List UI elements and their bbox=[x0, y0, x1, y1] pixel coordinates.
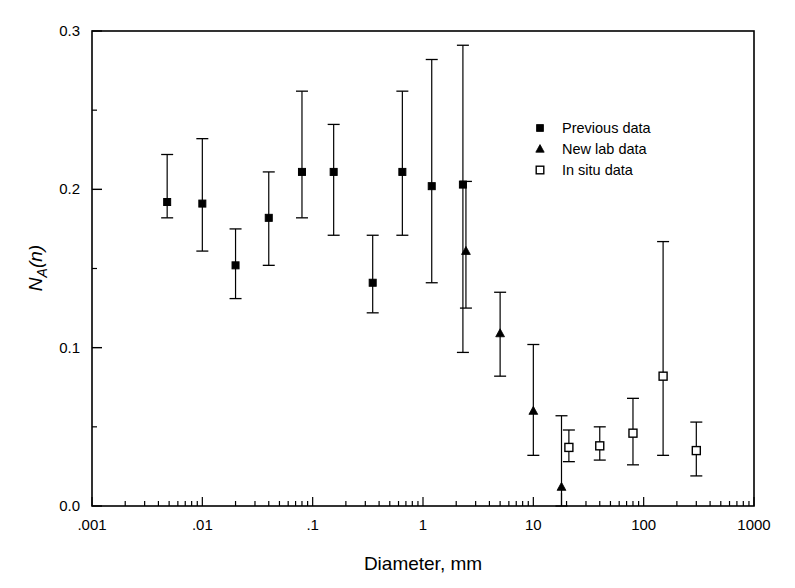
marker-filled-square bbox=[298, 168, 305, 175]
marker-filled-square bbox=[369, 279, 376, 286]
x-axis-tick-label: 100 bbox=[631, 516, 656, 533]
marker-filled-square bbox=[399, 168, 406, 175]
y-axis-title-subscript: A bbox=[34, 268, 50, 278]
y-axis-tick-label: 0.1 bbox=[59, 339, 80, 356]
legend-item-label: Previous data bbox=[562, 120, 652, 136]
marker-open-square bbox=[659, 372, 667, 380]
legend-item-label: In situ data bbox=[562, 162, 634, 178]
marker-filled-square bbox=[330, 168, 337, 175]
x-axis-tick-label: .001 bbox=[77, 516, 106, 533]
marker-filled-square bbox=[232, 262, 239, 269]
y-axis-title-paren: (n) bbox=[25, 245, 46, 268]
marker-open-square bbox=[596, 442, 604, 450]
marker-open-square bbox=[565, 443, 573, 451]
marker-open-square bbox=[629, 429, 637, 437]
x-axis-tick-label: 10 bbox=[525, 516, 542, 533]
y-axis-title-main: N bbox=[25, 277, 46, 291]
x-axis-tick-label: .1 bbox=[306, 516, 319, 533]
marker-filled-square bbox=[199, 200, 206, 207]
chart-figure: .001.01.11101001000 0.00.10.20.3 Diamete… bbox=[0, 0, 795, 588]
x-axis-tick-label: .01 bbox=[192, 516, 213, 533]
marker-open-square bbox=[692, 447, 700, 455]
marker-filled-square bbox=[428, 183, 435, 190]
marker-filled-square bbox=[537, 125, 544, 132]
x-axis-tick-label: 1 bbox=[419, 516, 427, 533]
legend-item-label: New lab data bbox=[562, 141, 648, 157]
y-axis-tick-label: 0.3 bbox=[59, 22, 80, 39]
y-axis-tick-label: 0.0 bbox=[59, 497, 80, 514]
marker-filled-square bbox=[265, 214, 272, 221]
x-axis-title: Diameter, mm bbox=[364, 553, 482, 574]
scatter-plot-canvas: .001.01.11101001000 0.00.10.20.3 Diamete… bbox=[0, 0, 795, 588]
chart-background bbox=[0, 0, 795, 588]
x-axis-tick-label: 1000 bbox=[737, 516, 770, 533]
marker-open-square bbox=[536, 166, 544, 174]
y-axis-tick-label: 0.2 bbox=[59, 180, 80, 197]
marker-filled-square bbox=[164, 199, 171, 206]
